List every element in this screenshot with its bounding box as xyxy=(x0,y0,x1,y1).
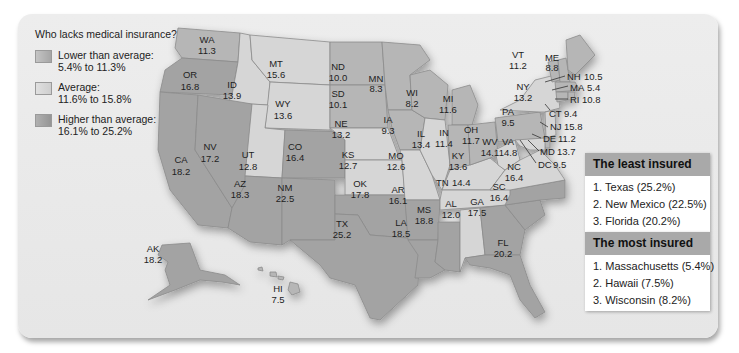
map-label: NE xyxy=(334,118,347,129)
map-label: VA xyxy=(502,136,515,147)
map-label: 14.8 xyxy=(499,147,518,158)
least-insured-title: The least insured xyxy=(585,153,710,176)
map-label: 13.4 xyxy=(412,139,431,150)
map-label: 17.5 xyxy=(468,207,487,218)
map-label: 16.4 xyxy=(490,192,509,203)
map-label: RI xyxy=(570,94,580,105)
map-label: DC xyxy=(538,159,552,170)
map-label: 10.5 xyxy=(584,71,603,82)
state-MS xyxy=(435,222,460,272)
map-label: 13.2 xyxy=(332,129,351,140)
map-label: KS xyxy=(342,149,355,160)
map-label: AZ xyxy=(234,178,246,189)
list-item: 2. Hawaii (7.5%) xyxy=(593,275,704,292)
map-label: 8.8 xyxy=(545,62,558,73)
map-label: AR xyxy=(391,184,404,195)
map-label: 11.2 xyxy=(558,133,576,144)
map-label: LA xyxy=(395,217,407,228)
map-label: 9.3 xyxy=(381,125,394,136)
map-label: TX xyxy=(336,218,349,229)
map-label: MD xyxy=(540,146,555,157)
map-label: 16.1 xyxy=(389,195,408,206)
map-label: NV xyxy=(203,141,217,152)
map-label: 12.8 xyxy=(239,161,258,172)
map-label: 25.2 xyxy=(333,229,352,240)
map-label: DE xyxy=(543,133,556,144)
map-label: 9.5 xyxy=(553,159,566,170)
map-label: 13.6 xyxy=(274,110,293,121)
state-ME xyxy=(566,35,595,75)
map-label: 9.4 xyxy=(564,108,577,119)
map-label: 7.5 xyxy=(271,294,284,305)
map-label: 10.1 xyxy=(329,99,348,110)
map-label: 11.2 xyxy=(509,60,527,71)
map-label: WV xyxy=(482,136,498,147)
map-label: NC xyxy=(507,161,521,172)
map-label: TN xyxy=(436,177,449,188)
most-insured-list: 1. Massachusetts (5.4%) 2. Hawaii (7.5%)… xyxy=(585,255,710,311)
map-label: 18.3 xyxy=(231,189,250,200)
map-label: 16.4 xyxy=(286,152,305,163)
map-label: 17.2 xyxy=(201,153,220,164)
map-label: 18.2 xyxy=(172,166,191,177)
map-label: 22.5 xyxy=(276,193,295,204)
map-label: NM xyxy=(278,182,293,193)
map-label: 13.6 xyxy=(449,161,468,172)
list-item: 1. Massachusetts (5.4%) xyxy=(593,258,704,275)
map-label: 13.2 xyxy=(514,92,533,103)
map-label: WY xyxy=(275,98,291,109)
map-label: 13.9 xyxy=(223,90,242,101)
map-label: HI xyxy=(273,283,283,294)
map-label: CO xyxy=(288,141,302,152)
map-label: MS xyxy=(417,204,431,215)
map-label: MT xyxy=(269,58,283,69)
map-shape xyxy=(148,28,595,320)
map-label: 12.7 xyxy=(339,160,358,171)
map-label: VT xyxy=(512,49,524,60)
list-item: 3. Florida (20.2%) xyxy=(593,213,704,230)
map-label: IA xyxy=(384,114,394,125)
state-FL xyxy=(465,255,545,318)
map-label: MA xyxy=(570,82,585,93)
map-label: CT xyxy=(549,108,562,119)
map-label: IL xyxy=(417,128,425,139)
map-label: FL xyxy=(497,237,508,248)
map-label: 14.1 xyxy=(481,147,500,158)
map-label: NJ xyxy=(550,121,562,132)
map-label: AL xyxy=(445,198,457,209)
list-item: 2. New Mexico (22.5%) xyxy=(593,196,704,213)
map-label: 10.0 xyxy=(329,72,348,83)
least-insured-box: The least insured 1. Texas (25.2%) 2. Ne… xyxy=(585,153,710,232)
map-label: 14.4 xyxy=(452,177,471,188)
map-label: 18.2 xyxy=(144,254,163,265)
most-insured-box: The most insured 1. Massachusetts (5.4%)… xyxy=(585,232,710,311)
map-label: 8.2 xyxy=(405,98,418,109)
map-label: MO xyxy=(388,150,403,161)
map-label: OR xyxy=(183,69,197,80)
map-label: 20.2 xyxy=(494,248,513,259)
map-label: 12.0 xyxy=(442,209,461,220)
map-label: 13.7 xyxy=(557,146,576,157)
least-insured-list: 1. Texas (25.2%) 2. New Mexico (22.5%) 3… xyxy=(585,176,710,232)
map-label: IN xyxy=(439,127,449,138)
map-label: 15.6 xyxy=(267,69,286,80)
map-label: PA xyxy=(502,106,515,117)
map-label: GA xyxy=(470,196,484,207)
map-label: NY xyxy=(516,81,530,92)
map-label: UT xyxy=(242,149,255,160)
map-label: 9.5 xyxy=(501,117,514,128)
most-insured-title: The most insured xyxy=(585,232,710,255)
list-item: 3. Wisconsin (8.2%) xyxy=(593,292,704,309)
map-label: SD xyxy=(331,88,344,99)
map-label: CA xyxy=(174,154,188,165)
map-label: 11.7 xyxy=(462,135,480,146)
map-label: WA xyxy=(200,34,216,45)
map-label: 11.3 xyxy=(198,45,216,56)
map-label: 11.4 xyxy=(435,138,453,149)
map-label: 16.4 xyxy=(505,172,524,183)
map-label: 10.8 xyxy=(582,94,601,105)
map-label: 11.6 xyxy=(439,104,457,115)
map-label: 15.8 xyxy=(564,121,583,132)
map-label: KY xyxy=(452,150,465,161)
state-AK xyxy=(148,243,240,300)
